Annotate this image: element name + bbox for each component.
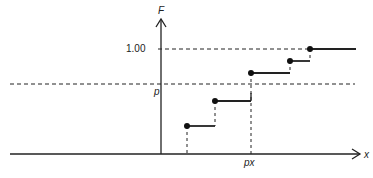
x-axis-label: x xyxy=(363,149,370,160)
x-axis: x xyxy=(10,149,370,160)
jump-point-icon xyxy=(248,70,254,76)
quantile-label: px xyxy=(243,157,256,168)
step-segments xyxy=(187,49,356,126)
cdf-step-diagram: x F 1.00 p px xyxy=(0,0,373,178)
level-one-reference: 1.00 xyxy=(126,43,310,54)
jump-point-icon xyxy=(184,123,190,129)
y-axis: F xyxy=(156,5,166,154)
level-p-label: p xyxy=(153,86,160,97)
jump-point-icon xyxy=(212,98,218,104)
level-p-reference: p xyxy=(10,84,355,97)
jump-point-icon xyxy=(307,46,313,52)
jump-point-icon xyxy=(287,58,293,64)
level-one-label: 1.00 xyxy=(126,43,146,54)
y-axis-label: F xyxy=(158,5,165,16)
jump-points xyxy=(184,46,313,129)
